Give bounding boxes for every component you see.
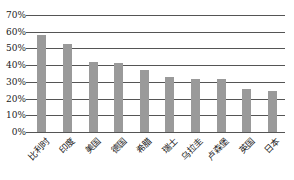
y-tick-label: 20% — [0, 94, 26, 104]
x-tick-label: 比利时 — [26, 136, 52, 162]
y-tick-label: 60% — [0, 27, 26, 37]
x-tick-label: 乌拉圭 — [179, 136, 205, 162]
bar — [217, 79, 226, 132]
bar — [242, 89, 251, 132]
y-tick-label: 70% — [0, 10, 26, 20]
y-tick-label: 40% — [0, 60, 26, 70]
bar — [165, 77, 174, 132]
bar — [114, 63, 123, 132]
gridline — [26, 15, 285, 16]
bar — [268, 91, 277, 132]
x-tick-label: 希腊 — [134, 136, 154, 156]
x-tick-label: 卢森堡 — [205, 136, 231, 162]
x-tick-label: 瑞士 — [160, 136, 180, 156]
x-tick-label: 印度 — [57, 136, 77, 156]
bar — [63, 44, 72, 132]
x-tick-label: 美国 — [83, 136, 103, 156]
bar — [140, 70, 149, 132]
bar — [37, 35, 46, 132]
x-tick-label: 英国 — [237, 136, 257, 156]
y-tick-label: 10% — [0, 110, 26, 120]
x-tick-label: 德国 — [109, 136, 129, 156]
x-tick-label: 日本 — [262, 136, 282, 156]
y-tick-label: 0% — [0, 127, 26, 137]
bar — [191, 79, 200, 132]
y-tick-label: 30% — [0, 77, 26, 87]
gridline — [26, 32, 285, 33]
bar-chart: 0%10%20%30%40%50%60%70% 比利时印度美国德国希腊瑞士乌拉圭… — [0, 0, 294, 180]
bar — [89, 62, 98, 132]
y-tick-label: 50% — [0, 43, 26, 53]
gridline — [26, 132, 285, 133]
